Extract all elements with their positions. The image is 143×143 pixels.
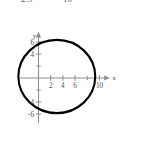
axis-name-labels-group: xy — [33, 32, 117, 82]
x-axis-arrowhead-icon — [104, 75, 110, 80]
x-tick-label: 2 — [49, 82, 53, 90]
coordinate-plane: 24610-6-446 xy — [0, 0, 143, 143]
x-tick-label: 4 — [61, 82, 65, 90]
y-tick-label: -6 — [28, 111, 34, 119]
x-axis-label: x — [113, 74, 117, 81]
x-tick-label: 10 — [96, 82, 104, 90]
x-tick-label: 6 — [73, 82, 77, 90]
y-tick-label: 6 — [30, 39, 34, 47]
y-tick-label: -4 — [28, 99, 34, 107]
y-tick-label: 4 — [30, 51, 34, 59]
graph-figure: 2.5 10 24610-6-446 xy — [0, 0, 143, 143]
y-axis-arrowhead-icon — [36, 32, 41, 38]
